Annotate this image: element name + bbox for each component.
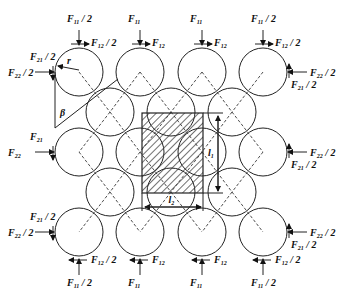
- left-normal-label: F22 / 2: [7, 227, 33, 239]
- right-shear-label: F21 / 2: [290, 159, 316, 171]
- top-normal-label: F11: [127, 13, 140, 25]
- dashed-contact-line: [232, 192, 263, 232]
- top-shear-label: F12 / 2: [274, 37, 300, 49]
- right-shear-label: F21 / 2: [290, 79, 316, 91]
- dashed-contact-line: [79, 112, 110, 152]
- dashed-contact-line: [232, 112, 263, 152]
- bottom-normal-label: F11 / 2: [66, 277, 92, 289]
- dashed-contact-line: [140, 192, 171, 232]
- left-normal-label: F22 / 2: [7, 67, 33, 79]
- dashed-contact-line: [202, 72, 232, 112]
- dashed-contact-line: [202, 192, 232, 232]
- bottom-shear-label: F12 / 2: [90, 254, 116, 266]
- dashed-contact-line: [171, 192, 202, 232]
- dashed-contact-line: [171, 72, 202, 112]
- dashed-contact-line: [79, 152, 110, 192]
- dashed-contact-line: [110, 112, 140, 152]
- bottom-shear-label: F12: [213, 254, 227, 266]
- right-normal-label: F22 / 2: [309, 147, 335, 159]
- left-normal-label: F22: [7, 147, 21, 159]
- left-shear-label: F21: [29, 131, 43, 143]
- radius-label: r: [67, 55, 71, 66]
- bottom-normal-label: F11: [189, 277, 202, 289]
- bottom-normal-label: F11 / 2: [250, 277, 276, 289]
- top-shear-label: F12: [151, 37, 165, 49]
- dashed-contact-line: [202, 112, 232, 152]
- unit-cell: [142, 113, 223, 211]
- right-normal-label: F22 / 2: [309, 227, 335, 239]
- dashed-contact-line: [79, 192, 110, 232]
- dashed-contact-line: [202, 152, 232, 192]
- packing-diagram: F11 / 2F12 / 2F11F12F11F12F11 / 2F12 / 2…: [0, 0, 346, 300]
- top-normal-label: F11 / 2: [250, 13, 276, 25]
- bottom-normal-label: F11: [127, 277, 140, 289]
- dashed-contact-line: [110, 152, 140, 192]
- dashed-contact-line: [140, 72, 171, 112]
- angle-triangle: [55, 72, 118, 128]
- bottom-shear-label: F12 / 2: [274, 254, 300, 266]
- right-shear-label: F21 / 2: [290, 239, 316, 251]
- right-normal-label: F22 / 2: [309, 67, 335, 79]
- left-shear-label: F21 / 2: [29, 211, 55, 223]
- dashed-contact-line: [232, 152, 263, 192]
- dashed-contact-line: [110, 192, 140, 232]
- left-shear-label: F21 / 2: [29, 51, 55, 63]
- dashed-contact-line: [232, 72, 263, 112]
- top-shear-label: F12 / 2: [90, 37, 116, 49]
- top-shear-label: F12: [213, 37, 227, 49]
- radius-line: [58, 66, 79, 70]
- top-normal-label: F11: [189, 13, 202, 25]
- width-label: l2: [169, 194, 175, 206]
- beta-label: β: [59, 107, 66, 118]
- dashed-contact-line: [110, 72, 140, 112]
- hatched-unit-cell: [142, 113, 203, 193]
- top-normal-label: F11 / 2: [66, 13, 92, 25]
- bottom-shear-label: F12: [151, 254, 165, 266]
- height-label: l1: [208, 147, 214, 159]
